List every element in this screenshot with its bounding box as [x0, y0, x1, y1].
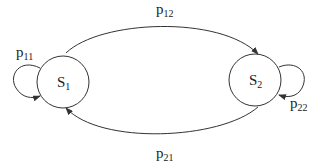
edge-p22-self-loop: [279, 65, 304, 97]
transition-label-p11: p11: [16, 44, 33, 62]
transition-label-p22: p22: [290, 95, 308, 113]
transition-label-p12: p12: [156, 1, 174, 19]
edge-p12: [66, 26, 258, 54]
edge-p11-self-loop: [13, 65, 40, 98]
edge-p21: [66, 107, 258, 134]
markov-diagram: S1 S2 p11 p12 p21 p22: [0, 0, 322, 166]
transition-label-p21: p21: [156, 145, 174, 163]
